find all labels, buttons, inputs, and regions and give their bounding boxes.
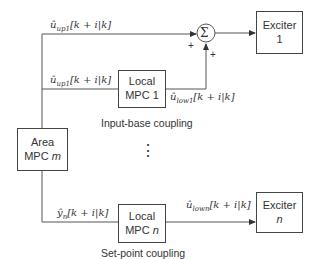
- sum-sign-bottom: +: [210, 50, 216, 60]
- signal-u-up1-top: ûup1[k + i|k]: [50, 20, 111, 33]
- area-mpc-block: Area MPC m: [17, 128, 68, 171]
- exciter-n-index: n: [276, 213, 282, 227]
- local-mpc-n-block: Local MPC n: [118, 204, 166, 243]
- local-mpc-1-title: Local: [129, 75, 155, 89]
- local-mpc-n-var: n: [153, 224, 159, 236]
- vertical-ellipsis: ⋮: [140, 143, 156, 159]
- local-mpc-1-index: MPC 1: [125, 89, 159, 103]
- local-mpc-n-title: Local: [129, 210, 155, 224]
- caption-input-base-coupling: Input-base coupling: [101, 118, 193, 129]
- area-mpc-prefix: MPC: [24, 150, 52, 162]
- signal-y-n: ŷn[k + i|k]: [57, 208, 108, 221]
- area-mpc-var: m: [52, 150, 61, 162]
- exciter-1-block: Exciter 1: [256, 11, 303, 54]
- local-mpc-n-prefix: MPC: [125, 224, 153, 236]
- area-mpc-title: Area: [31, 136, 54, 150]
- local-mpc-1-block: Local MPC 1: [118, 70, 166, 108]
- exciter-n-title: Exciter: [263, 199, 297, 213]
- signal-u-low1: ûlow1[k + i|k]: [170, 92, 235, 105]
- signal-u-up1-mid: ûup1[k + i|k]: [50, 75, 111, 88]
- sum-sign-left: +: [188, 41, 194, 51]
- sum-symbol: Σ: [200, 27, 208, 39]
- area-mpc-label: MPC m: [24, 150, 61, 164]
- signal-u-lown: ûlown[k + i|k]: [186, 200, 251, 213]
- local-mpc-n-label: MPC n: [125, 224, 159, 238]
- exciter-n-block: Exciter n: [256, 192, 303, 233]
- caption-set-point-coupling: Set-point coupling: [101, 248, 185, 259]
- exciter-1-title: Exciter: [263, 19, 297, 33]
- exciter-1-index: 1: [276, 33, 282, 47]
